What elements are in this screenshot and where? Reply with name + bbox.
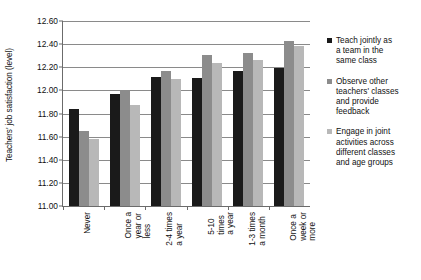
- bar: [151, 77, 161, 207]
- x-tick-mark: [269, 206, 270, 210]
- bar: [69, 109, 79, 206]
- legend-swatch-icon: [327, 129, 332, 134]
- y-tick-label: 12.60: [37, 16, 58, 26]
- y-tick-label: 11.20: [38, 178, 58, 188]
- x-axis-tick-label: Never: [83, 212, 93, 234]
- x-label-cell: Once aweek ormore: [269, 210, 310, 276]
- x-tick-mark: [104, 206, 105, 210]
- x-tick-mark: [63, 206, 64, 210]
- legend-item[interactable]: Observe otherteachers' classesand provid…: [327, 77, 419, 118]
- x-label-cell: Once ayear orless: [103, 210, 144, 276]
- x-label-cell: Never: [62, 210, 103, 276]
- x-axis-tick-label: 2-4 timesa year: [165, 212, 184, 246]
- x-axis-tick-label: Once aweek ormore: [289, 212, 318, 241]
- bar: [233, 71, 243, 206]
- x-label-cell: 1-3 timesa month: [227, 210, 268, 276]
- legend-label: Engage in jointactivities acrossdifferen…: [336, 127, 395, 168]
- chart-legend: Teach jointly asa team in thesame classO…: [327, 36, 419, 178]
- y-tick-label: 12.20: [37, 62, 58, 72]
- y-tick-label: 11.40: [38, 155, 58, 165]
- y-tick-label: 12.40: [37, 39, 58, 49]
- legend-swatch-icon: [327, 38, 332, 43]
- bar: [274, 68, 284, 206]
- x-label-cell: 2-4 timesa year: [145, 210, 186, 276]
- bar: [161, 71, 171, 206]
- bar: [284, 41, 294, 206]
- bar-chart: Teachers' job satisfaction (level) 12.60…: [0, 0, 421, 280]
- plot-area: 12.6012.4012.2012.0011.8011.6011.4011.20…: [62, 21, 310, 207]
- bar: [243, 53, 253, 206]
- bar: [130, 105, 140, 206]
- bar-group: [63, 21, 104, 206]
- x-tick-mark: [145, 206, 146, 210]
- bar: [89, 139, 99, 206]
- bar: [79, 131, 89, 206]
- x-axis-tick-label: 1-3 timesa month: [248, 212, 267, 246]
- bar: [192, 78, 202, 206]
- y-axis-title: Teachers' job satisfaction (level): [2, 0, 16, 210]
- y-tick-label: 11.60: [38, 132, 58, 142]
- y-tick-label: 11.00: [38, 201, 58, 211]
- bar-group: [104, 21, 145, 206]
- x-tick-mark: [228, 206, 229, 210]
- bar: [120, 90, 130, 206]
- legend-label: Teach jointly asa team in thesame class: [336, 36, 392, 67]
- bar-group: [269, 21, 310, 206]
- bar-group: [145, 21, 186, 206]
- legend-label: Observe otherteachers' classesand provid…: [336, 77, 399, 118]
- y-tick-label: 11.80: [38, 109, 58, 119]
- bar-groups: [63, 21, 310, 206]
- bar: [171, 79, 181, 206]
- bar: [110, 94, 120, 206]
- bar-group: [228, 21, 269, 206]
- bar: [253, 60, 263, 206]
- legend-swatch-icon: [327, 79, 332, 84]
- x-tick-mark: [187, 206, 188, 210]
- plot-frame: 12.6012.4012.2012.0011.8011.6011.4011.20…: [62, 21, 310, 207]
- bar: [202, 55, 212, 206]
- bar: [294, 46, 304, 206]
- bar-group: [187, 21, 228, 206]
- legend-item[interactable]: Engage in jointactivities acrossdifferen…: [327, 127, 419, 168]
- bar: [212, 63, 222, 206]
- x-label-cell: 5-10timesa year: [186, 210, 227, 276]
- legend-item[interactable]: Teach jointly asa team in thesame class: [327, 36, 419, 67]
- y-tick-label: 12.00: [37, 85, 58, 95]
- x-axis-labels: NeverOnce ayear orless2-4 timesa year5-1…: [62, 210, 310, 276]
